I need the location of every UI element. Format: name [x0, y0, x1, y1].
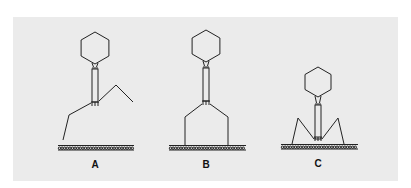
membrane-bead: [84, 147, 86, 149]
membrane-bead: [190, 147, 192, 149]
membrane-bead: [87, 147, 89, 149]
membrane-bead: [79, 147, 81, 149]
membrane-bead: [97, 147, 99, 149]
panel-label-c: C: [314, 158, 321, 169]
membrane-bead: [214, 147, 216, 149]
baseplate: [202, 101, 210, 105]
membrane-bead: [336, 146, 338, 148]
membrane-bead: [346, 146, 348, 148]
membrane-bead: [289, 146, 291, 148]
membrane-bead: [129, 147, 131, 149]
membrane-bead: [224, 147, 226, 149]
phage-c: [281, 67, 358, 149]
membrane-bead: [90, 147, 92, 149]
phage-b: [169, 30, 246, 150]
membrane-bead: [61, 147, 63, 149]
membrane-bead: [344, 146, 346, 148]
membrane-bead: [354, 146, 356, 148]
membrane-beads: [169, 147, 244, 149]
tail-fiber: [210, 104, 228, 145]
membrane-bead: [300, 146, 302, 148]
membrane-bead: [297, 146, 299, 148]
membrane-bead: [185, 147, 187, 149]
membrane-bead: [206, 147, 208, 149]
membrane-bead: [294, 146, 296, 148]
membrane-bead: [221, 147, 223, 149]
membrane-bead: [315, 146, 317, 148]
membrane-bead: [227, 147, 229, 149]
membrane-bead: [182, 147, 184, 149]
capsid-head: [192, 30, 220, 62]
membrane-bead: [237, 147, 239, 149]
membrane-bead: [123, 147, 125, 149]
membrane-bead: [310, 146, 312, 148]
membrane-bead: [198, 147, 200, 149]
membrane-bead: [203, 147, 205, 149]
tail-sheath: [203, 68, 209, 101]
membrane-bead: [328, 146, 330, 148]
membrane-bead: [77, 147, 79, 149]
membrane-bead: [341, 146, 343, 148]
tail-fiber: [292, 118, 314, 144]
membrane-bead: [74, 147, 76, 149]
tail-fiber: [185, 104, 202, 145]
membrane-bead: [281, 146, 283, 148]
membrane-bead: [333, 146, 335, 148]
membrane-bead: [108, 147, 110, 149]
membrane-beads: [58, 147, 133, 149]
tail-sheath: [92, 69, 98, 102]
membrane-bead: [292, 146, 294, 148]
membrane-bead: [242, 147, 244, 149]
membrane-bead: [121, 147, 123, 149]
capsid-head: [81, 32, 109, 64]
membrane-bead: [118, 147, 120, 149]
tail-fiber: [63, 103, 91, 140]
membrane-bead: [287, 146, 289, 148]
membrane-bead: [95, 147, 97, 149]
membrane-bead: [82, 147, 84, 149]
membrane-bead: [216, 147, 218, 149]
membrane-bead: [229, 147, 231, 149]
membrane-bead: [175, 147, 177, 149]
membrane-bead: [284, 146, 286, 148]
membrane-bead: [307, 146, 309, 148]
membrane-bead: [110, 147, 112, 149]
membrane-bead: [103, 147, 105, 149]
membrane-bead: [105, 147, 107, 149]
membrane-bead: [113, 147, 115, 149]
membrane-bead: [326, 146, 328, 148]
membrane-bead: [177, 147, 179, 149]
baseplate: [91, 102, 99, 106]
membrane-bead: [211, 147, 213, 149]
membrane-bead: [193, 147, 195, 149]
membrane-bead: [339, 146, 341, 148]
phage-a: [58, 32, 134, 150]
membrane-bead: [63, 147, 65, 149]
membrane-bead: [180, 147, 182, 149]
membrane-bead: [320, 146, 322, 148]
membrane-beads: [281, 146, 356, 148]
membrane-bead: [302, 146, 304, 148]
tail-sheath: [315, 105, 321, 139]
membrane-bead: [169, 147, 171, 149]
membrane-bead: [58, 147, 60, 149]
membrane-bead: [201, 147, 203, 149]
membrane-bead: [195, 147, 197, 149]
panel-label-a: A: [91, 159, 98, 170]
tail-fiber: [322, 118, 344, 144]
membrane-bead: [232, 147, 234, 149]
capsid-head: [305, 67, 331, 97]
membrane-bead: [188, 147, 190, 149]
membrane-bead: [116, 147, 118, 149]
membrane-bead: [71, 147, 73, 149]
membrane-bead: [131, 147, 133, 149]
membrane-bead: [69, 147, 71, 149]
membrane-bead: [313, 146, 315, 148]
tail-fiber: [99, 85, 133, 102]
panel-label-b: B: [202, 159, 209, 170]
membrane-bead: [323, 146, 325, 148]
membrane-bead: [100, 147, 102, 149]
membrane-bead: [318, 146, 320, 148]
membrane-bead: [352, 146, 354, 148]
membrane-bead: [331, 146, 333, 148]
